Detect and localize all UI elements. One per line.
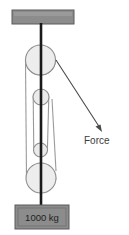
- applied-force-arrow-head: [96, 125, 103, 133]
- applied-force-arrow-shaft: [56, 60, 100, 128]
- pulley-diagram-canvas: Force 1000 kg: [0, 0, 129, 235]
- inner-rope-right: [47, 97, 48, 150]
- inner-rope-outer-right: [52, 99, 56, 171]
- force-label: Force: [84, 135, 110, 146]
- outer-left-rope: [26, 60, 27, 178]
- hanging-mass-label: 1000 kg: [25, 212, 59, 223]
- ceiling-bracket-highlight: [14, 12, 72, 16]
- inner-rope-left: [33, 97, 34, 150]
- pulley-system-svg: Force 1000 kg: [0, 0, 129, 235]
